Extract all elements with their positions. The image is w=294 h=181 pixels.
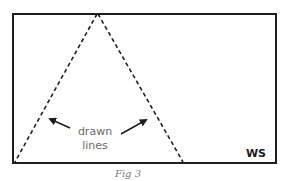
figure-canvas: drawn lines WS Fig 3: [0, 0, 294, 181]
arrow-left-icon: [50, 119, 70, 128]
arrow-right-icon: [121, 120, 146, 134]
corner-label: WS: [246, 147, 266, 160]
figure-caption: Fig 3: [114, 168, 141, 179]
frame-rectangle: [13, 14, 276, 163]
annotation-line-2: lines: [82, 139, 108, 152]
annotation-line-1: drawn: [78, 125, 112, 138]
dashed-line-right: [98, 14, 183, 162]
